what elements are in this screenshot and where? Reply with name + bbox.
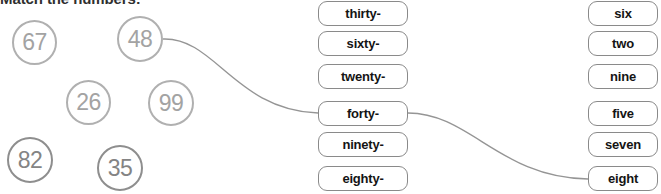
suffix-option-two[interactable]: two <box>588 31 658 56</box>
number-circle-26[interactable]: 26 <box>66 80 111 125</box>
prefix-option-eighty[interactable]: eighty- <box>318 166 408 191</box>
page-title: Match the numbers: <box>0 0 141 7</box>
connector-line-2 <box>408 113 588 179</box>
suffix-option-nine[interactable]: nine <box>588 64 658 89</box>
match-the-numbers-exercise: Match the numbers: 674826998235 thirty-s… <box>0 0 661 194</box>
prefix-option-sixty[interactable]: sixty- <box>318 31 408 56</box>
suffix-option-seven[interactable]: seven <box>588 132 658 157</box>
number-circle-99[interactable]: 99 <box>148 80 194 126</box>
suffix-option-six[interactable]: six <box>588 1 658 26</box>
suffix-option-five[interactable]: five <box>588 101 658 126</box>
prefix-option-twenty[interactable]: twenty- <box>318 64 408 89</box>
number-circle-67[interactable]: 67 <box>12 20 57 65</box>
number-circle-35[interactable]: 35 <box>97 145 143 191</box>
number-circle-48[interactable]: 48 <box>117 16 163 62</box>
suffix-option-eight[interactable]: eight <box>588 166 658 191</box>
number-circle-82[interactable]: 82 <box>7 137 53 183</box>
prefix-option-forty[interactable]: forty- <box>318 101 408 126</box>
prefix-option-thirty[interactable]: thirty- <box>318 1 408 26</box>
prefix-option-ninety[interactable]: ninety- <box>318 132 408 157</box>
